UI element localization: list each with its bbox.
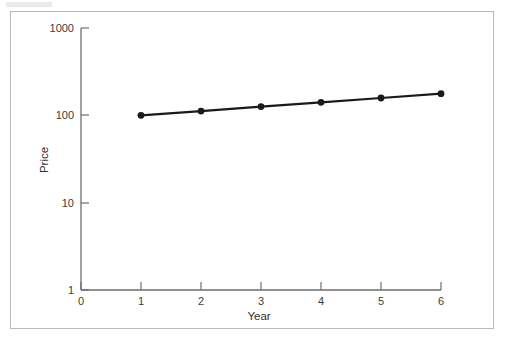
figure-root: 1000 100 10 1 0 1 2 3 4 5 6 Price Year bbox=[0, 0, 507, 343]
axis-lines bbox=[81, 28, 441, 290]
price-vs-year-line-chart: 1000 100 10 1 0 1 2 3 4 5 6 Price Year bbox=[0, 0, 507, 343]
y-axis-tick-labels: 1000 100 10 1 bbox=[50, 22, 74, 296]
x-tick-label-3: 3 bbox=[258, 295, 264, 307]
y-tick-label-100: 100 bbox=[56, 109, 74, 121]
data-point-year-1 bbox=[138, 112, 145, 119]
x-axis-tick-labels: 0 1 2 3 4 5 6 bbox=[78, 295, 444, 307]
y-axis-ticks bbox=[81, 28, 89, 290]
data-point-year-6 bbox=[438, 90, 445, 97]
y-tick-label-1000: 1000 bbox=[50, 22, 74, 34]
x-tick-label-6: 6 bbox=[438, 295, 444, 307]
data-point-year-5 bbox=[378, 95, 385, 102]
x-tick-label-1: 1 bbox=[138, 295, 144, 307]
x-tick-label-0: 0 bbox=[78, 295, 84, 307]
data-point-year-4 bbox=[318, 99, 325, 106]
y-tick-label-1: 1 bbox=[68, 284, 74, 296]
x-axis-title: Year bbox=[247, 310, 270, 322]
x-tick-label-5: 5 bbox=[378, 295, 384, 307]
data-point-year-3 bbox=[258, 103, 265, 110]
x-axis-ticks bbox=[81, 282, 441, 290]
price-series-line bbox=[141, 94, 441, 116]
x-tick-label-4: 4 bbox=[318, 295, 324, 307]
data-point-year-2 bbox=[198, 108, 205, 115]
y-tick-label-10: 10 bbox=[62, 197, 74, 209]
x-tick-label-2: 2 bbox=[198, 295, 204, 307]
y-axis-title: Price bbox=[38, 147, 50, 173]
